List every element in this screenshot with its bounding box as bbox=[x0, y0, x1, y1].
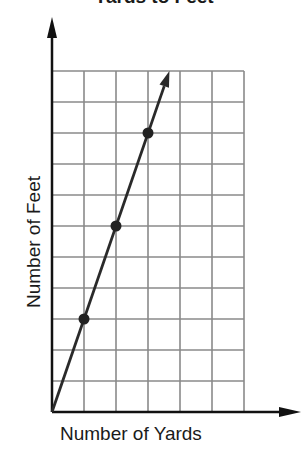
data-point bbox=[143, 128, 154, 139]
axes bbox=[47, 17, 301, 417]
series-arrow-icon bbox=[160, 71, 170, 88]
data-series bbox=[52, 71, 169, 412]
grid-lines bbox=[52, 71, 244, 412]
data-point bbox=[111, 221, 122, 232]
chart-plot-area bbox=[0, 0, 308, 465]
data-point bbox=[79, 314, 90, 325]
y-axis-arrow-icon bbox=[47, 17, 57, 38]
x-axis-arrow-icon bbox=[279, 407, 301, 417]
x-axis-label: Number of Yards bbox=[60, 423, 202, 445]
